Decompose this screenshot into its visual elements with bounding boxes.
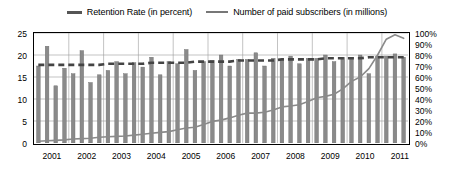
- y-right-tick: 40%: [415, 96, 432, 105]
- y-left-tick: 20: [18, 52, 27, 61]
- x-axis-tick: 2003: [112, 152, 131, 161]
- y-right-tick: 30%: [415, 107, 432, 116]
- y-right-tick: 20%: [415, 118, 432, 127]
- x-axis: 2001200220032004200520062007200820092010…: [33, 150, 410, 166]
- dashed-swatch-icon: [67, 11, 82, 14]
- x-axis-tick: 2010: [356, 152, 375, 161]
- y-left-tick: 25: [18, 30, 27, 39]
- chart-legend: Retention Rate (in percent) Number of pa…: [0, 4, 454, 20]
- y-right-tick: 90%: [415, 41, 432, 50]
- y-right-tick: 60%: [415, 74, 432, 83]
- y-right-tick: 70%: [415, 63, 432, 72]
- legend-item-paid-subscribers: Number of paid subscribers (in millions): [206, 7, 387, 17]
- plot-area: [33, 32, 410, 145]
- x-axis-tick: 2007: [251, 152, 270, 161]
- x-axis-tick: 2002: [77, 152, 96, 161]
- y-right-tick: 80%: [415, 52, 432, 61]
- line-swatch-icon: [206, 11, 228, 13]
- plot-inner: [34, 33, 409, 144]
- legend-label-retention-rate: Retention Rate (in percent): [87, 7, 192, 17]
- y-right-tick: 0%: [415, 140, 427, 149]
- legend-label-paid-subscribers: Number of paid subscribers (in millions): [233, 7, 387, 17]
- x-axis-tick: 2005: [182, 152, 201, 161]
- y-axis-right: 0%10%20%30%40%50%60%70%80%90%100%: [413, 32, 453, 145]
- y-right-tick: 100%: [415, 30, 437, 39]
- y-right-tick: 10%: [415, 129, 432, 138]
- legend-item-retention-rate: Retention Rate (in percent): [67, 7, 192, 17]
- retention-subscribers-chart: Retention Rate (in percent) Number of pa…: [0, 0, 454, 176]
- y-axis-left: 0510152025: [0, 32, 30, 145]
- y-left-tick: 15: [18, 74, 27, 83]
- x-axis-tick: 2009: [321, 152, 340, 161]
- y-right-tick: 50%: [415, 85, 432, 94]
- y-left-tick: 10: [18, 96, 27, 105]
- x-axis-tick: 2001: [42, 152, 61, 161]
- x-axis-tick: 2008: [286, 152, 305, 161]
- chart-canvas: [34, 33, 408, 143]
- x-axis-tick: 2006: [216, 152, 235, 161]
- y-left-tick: 0: [22, 140, 27, 149]
- x-axis-tick: 2004: [147, 152, 166, 161]
- y-left-tick: 5: [22, 118, 27, 127]
- x-axis-tick: 2011: [391, 152, 409, 161]
